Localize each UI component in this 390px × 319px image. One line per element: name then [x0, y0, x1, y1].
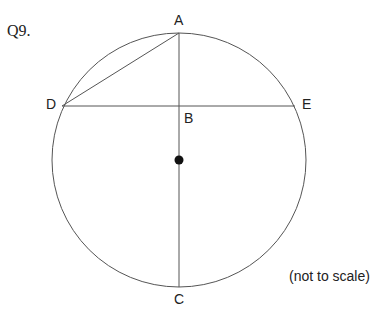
center-dot	[175, 156, 184, 165]
label-d: D	[46, 96, 56, 112]
label-e: E	[302, 96, 311, 112]
not-to-scale-note: (not to scale)	[289, 268, 370, 284]
label-a: A	[174, 12, 183, 28]
label-c: C	[174, 291, 184, 307]
chord-ad	[62, 33, 179, 106]
label-b: B	[184, 110, 193, 126]
